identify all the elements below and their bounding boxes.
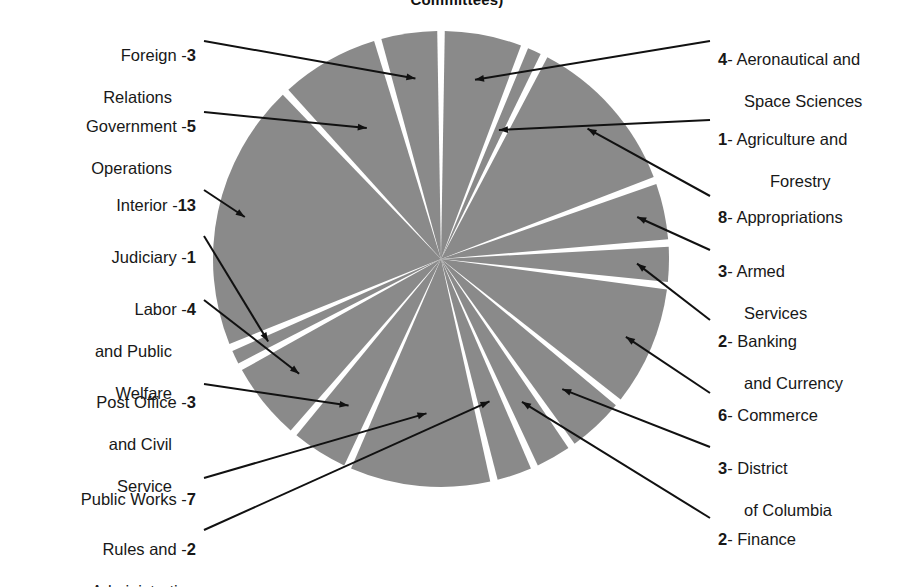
value-appropriations: 8 bbox=[718, 208, 727, 226]
value-government-operations: 5 bbox=[187, 117, 196, 135]
name-aeronautical-line1: Aeronautical and bbox=[736, 50, 860, 68]
sep-armed: - bbox=[727, 262, 733, 280]
name-foreign-line1: Foreign bbox=[121, 46, 177, 64]
value-post-office-and-civil-service: 3 bbox=[187, 393, 196, 411]
name-banking-line1: Banking bbox=[737, 332, 797, 350]
value-banking-and-currency: 2 bbox=[718, 332, 727, 350]
value-commerce: 6 bbox=[718, 406, 727, 424]
value-agriculture-and-forestry: 1 bbox=[718, 130, 727, 148]
name-publicworks-line1: Public Works bbox=[81, 490, 177, 508]
callout-rules-and-administration[interactable]: Rules and -2 Administration bbox=[0, 518, 196, 587]
name-agriculture-line1: Agriculture and bbox=[736, 130, 847, 148]
name-commerce-line1: Commerce bbox=[737, 406, 818, 424]
name-finance-line1: Finance bbox=[737, 530, 796, 548]
name-armed-line1: Armed bbox=[736, 262, 785, 280]
name-rules-line2: Administration bbox=[0, 581, 196, 587]
sep-finance: - bbox=[727, 530, 733, 548]
callout-finance[interactable]: 2- Finance bbox=[718, 508, 796, 571]
sep-appropriations: - bbox=[727, 208, 733, 226]
sep-district: - bbox=[727, 459, 733, 477]
sep-agriculture: - bbox=[727, 130, 733, 148]
value-finance: 2 bbox=[718, 530, 727, 548]
leader-line bbox=[522, 402, 710, 518]
value-district-of-columbia: 3 bbox=[718, 459, 727, 477]
name-labor-line2: and Public bbox=[0, 341, 196, 362]
chart-canvas: Committees) 4- Aeronautical and Space Sc… bbox=[0, 0, 914, 587]
name-district-line1: District bbox=[737, 459, 787, 477]
value-foreign-relations: 3 bbox=[187, 46, 196, 64]
name-postoffice-line1: Post Office bbox=[96, 393, 176, 411]
value-rules-and-administration: 2 bbox=[187, 540, 196, 558]
name-government-line1: Government bbox=[86, 117, 177, 135]
value-judiciary: 1 bbox=[187, 248, 196, 266]
sep-commerce: - bbox=[727, 406, 733, 424]
value-aeronautical-and-space-sciences: 4 bbox=[718, 50, 727, 68]
name-postoffice-line2: and Civil bbox=[0, 434, 196, 455]
value-interior: 13 bbox=[178, 196, 196, 214]
name-rules-line1: Rules and bbox=[102, 540, 176, 558]
sep-banking: - bbox=[727, 332, 733, 350]
name-labor-line1: Labor bbox=[135, 300, 177, 318]
sep-aeronautical: - bbox=[727, 50, 733, 68]
value-public-works: 7 bbox=[187, 490, 196, 508]
pie-slice-group bbox=[213, 31, 669, 487]
name-judiciary-line1: Judiciary bbox=[112, 248, 177, 266]
value-labor-and-public-welfare: 4 bbox=[187, 300, 196, 318]
name-appropriations-line1: Appropriations bbox=[736, 208, 842, 226]
name-interior-line1: Interior bbox=[116, 196, 167, 214]
value-armed-services: 3 bbox=[718, 262, 727, 280]
